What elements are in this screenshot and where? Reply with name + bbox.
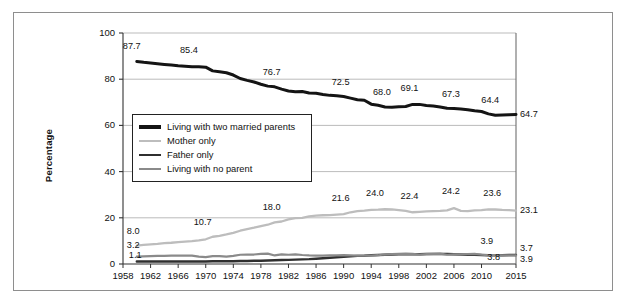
y-tick-label: 0 — [89, 258, 115, 269]
data-point-label: 85.4 — [180, 45, 198, 55]
series-end-label: 64.7 — [520, 109, 538, 119]
x-tick-label: 1962 — [136, 270, 166, 281]
legend-item-label: Living with no parent — [167, 164, 252, 174]
x-tick-label: 1966 — [163, 270, 193, 281]
legend-item-label: Mother only — [167, 136, 216, 146]
series-end-label: 3.9 — [520, 254, 533, 264]
y-tick-label: 40 — [89, 166, 115, 177]
x-tick-label: 1990 — [329, 270, 359, 281]
data-point-label: 23.6 — [483, 188, 501, 198]
data-point-label: 21.6 — [332, 193, 350, 203]
x-tick-label: 2002 — [411, 270, 441, 281]
y-tick-label: 20 — [89, 212, 115, 223]
legend-item-label: Living with two married parents — [167, 122, 295, 132]
y-tick-label: 80 — [89, 73, 115, 84]
series-end-label: 23.1 — [520, 205, 538, 215]
data-point-label: 3.9 — [480, 236, 493, 246]
chart-legend: Living with two married parentsMother on… — [132, 114, 312, 182]
x-tick-label: 1978 — [246, 270, 276, 281]
x-tick-label: 1974 — [218, 270, 248, 281]
y-axis-title: Percentage — [43, 96, 54, 216]
data-point-label: 68.0 — [373, 87, 391, 97]
legend-swatch-icon — [139, 154, 161, 157]
chart-screenshot: Percentage 10080604020019581962196619701… — [0, 0, 626, 304]
legend-item: Mother only — [139, 134, 304, 148]
legend-item: Living with two married parents — [139, 120, 304, 134]
x-tick-label: 2006 — [439, 270, 469, 281]
data-point-label: 24.0 — [366, 188, 384, 198]
y-tick-label: 100 — [89, 27, 115, 38]
data-point-label: 72.5 — [332, 77, 350, 87]
data-point-label: 3.8 — [487, 252, 500, 262]
legend-item: Living with no parent — [139, 162, 304, 176]
x-tick-label: 2015 — [501, 270, 531, 281]
legend-swatch-icon — [139, 125, 161, 128]
legend-swatch-icon — [139, 168, 161, 171]
data-point-label: 10.7 — [194, 217, 212, 227]
data-point-label: 1.1 — [129, 250, 142, 260]
x-tick-label: 1982 — [273, 270, 303, 281]
data-point-label: 69.1 — [401, 83, 419, 93]
data-point-label: 22.4 — [401, 191, 419, 201]
data-point-label: 64.4 — [481, 95, 499, 105]
x-tick-label: 2010 — [467, 270, 497, 281]
data-point-label: 24.2 — [442, 186, 460, 196]
x-tick-label: 1970 — [191, 270, 221, 281]
data-point-label: 3.2 — [127, 240, 140, 250]
data-point-label: 76.7 — [263, 67, 281, 77]
y-tick-label: 60 — [89, 119, 115, 130]
data-point-label: 67.3 — [442, 89, 460, 99]
x-tick-label: 1994 — [356, 270, 386, 281]
series-end-label: 3.7 — [520, 243, 533, 253]
x-tick-label: 1986 — [301, 270, 331, 281]
data-point-label: 87.7 — [123, 41, 141, 51]
legend-item: Father only — [139, 148, 304, 162]
legend-swatch-icon — [139, 140, 161, 142]
line-chart-figure: Percentage 10080604020019581962196619701… — [0, 0, 626, 304]
x-tick-label: 1958 — [108, 270, 138, 281]
data-point-label: 8.0 — [127, 226, 140, 236]
legend-item-label: Father only — [167, 150, 214, 160]
data-point-label: 18.0 — [263, 202, 281, 212]
series-line — [137, 254, 516, 257]
x-tick-label: 1998 — [384, 270, 414, 281]
